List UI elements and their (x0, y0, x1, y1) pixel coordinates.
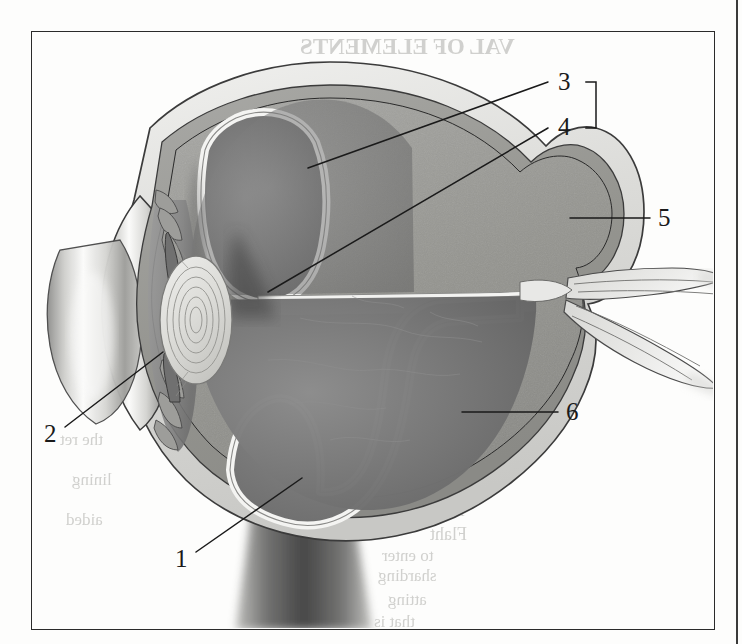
leader-line-4 (268, 128, 548, 292)
label-number-5: 5 (658, 205, 671, 230)
label-number-2: 2 (44, 421, 57, 446)
leader-line-3 (308, 82, 548, 168)
label-number-4: 4 (558, 114, 571, 139)
label-number-3: 3 (558, 69, 571, 94)
labels-3-4-bracket (586, 82, 596, 128)
leader-line-2 (65, 352, 163, 427)
label-number-1: 1 (175, 546, 188, 571)
label-leader-layer (0, 0, 742, 644)
scanned-page: VAL OF ELEMENTSto not the lower toinstal… (0, 0, 742, 644)
label-number-6: 6 (566, 399, 579, 424)
leader-line-1 (196, 478, 302, 552)
